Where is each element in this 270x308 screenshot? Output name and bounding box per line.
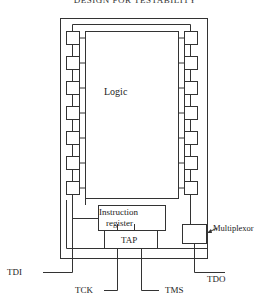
logic-label: Logic — [104, 86, 128, 97]
multiplexor-block — [183, 225, 207, 244]
tap-label: TAP — [121, 235, 137, 245]
tdo-label: TDO — [207, 274, 226, 284]
boundary-scan-diagram: Logic Instruction register TAP Multiplex… — [0, 0, 270, 308]
tck-label: TCK — [75, 285, 94, 295]
instruction-register-label-line1: Instruction — [99, 207, 138, 217]
multiplexor-label: Multiplexor — [213, 223, 254, 233]
scan-chain-top-link — [73, 25, 191, 32]
instruction-register-label-line2: register — [106, 218, 133, 228]
tdi-label: TDI — [7, 267, 22, 277]
tms-label: TMS — [165, 285, 184, 295]
tdi-line — [43, 258, 73, 273]
logic-block — [86, 32, 179, 199]
tms-line — [142, 249, 160, 291]
tck-line — [104, 249, 118, 291]
